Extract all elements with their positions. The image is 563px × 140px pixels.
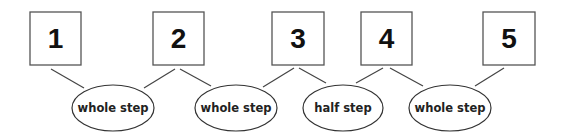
step-ellipse-1: whole step xyxy=(72,85,154,131)
note-box-1: 1 xyxy=(30,12,81,65)
step-ellipse-3: half step xyxy=(303,85,383,131)
note-number: 3 xyxy=(290,23,306,54)
connector-line xyxy=(144,69,175,88)
note-box-2: 2 xyxy=(153,12,204,65)
connector-line xyxy=(356,68,383,83)
note-box-5: 5 xyxy=(483,12,535,65)
step-ellipse-2: whole step xyxy=(195,85,277,131)
connector-line xyxy=(263,68,294,87)
step-ellipse-4: whole step xyxy=(409,85,491,131)
note-number: 5 xyxy=(501,23,517,54)
step-label: half step xyxy=(314,101,371,115)
note-box-4: 4 xyxy=(361,12,412,65)
note-number: 2 xyxy=(171,23,187,54)
step-label: whole step xyxy=(415,101,486,115)
step-label: whole step xyxy=(78,101,149,115)
connector-line xyxy=(51,69,84,88)
connector-line xyxy=(180,69,211,86)
step-diagram: 1 2 3 4 5 whole step whole step half ste… xyxy=(0,0,563,140)
connector-line xyxy=(299,68,326,83)
note-number: 4 xyxy=(379,23,395,54)
step-label: whole step xyxy=(201,101,272,115)
note-number: 1 xyxy=(48,23,64,54)
connector-line xyxy=(390,68,423,86)
connector-line xyxy=(475,68,504,86)
note-box-3: 3 xyxy=(272,12,324,65)
